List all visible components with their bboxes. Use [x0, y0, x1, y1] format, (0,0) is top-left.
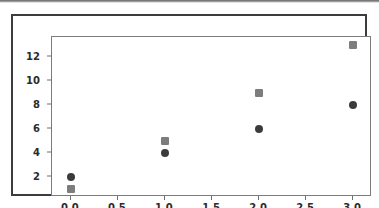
y-tick-label: 2: [33, 170, 40, 181]
x-tick-mark: [258, 196, 259, 200]
y-tick-mark: [47, 127, 51, 128]
y-tick-label: 8: [33, 99, 40, 110]
data-point-circles-3: [349, 101, 357, 109]
x-tick-label: 1.5: [202, 202, 220, 208]
scatter-plot-area: [51, 36, 371, 196]
x-tick-mark: [305, 196, 306, 200]
y-tick-label: 4: [33, 146, 40, 157]
x-tick-label: 0.5: [108, 202, 126, 208]
y-tick-mark: [47, 56, 51, 57]
data-point-squares-0: [67, 185, 75, 193]
x-tick-mark: [164, 196, 165, 200]
x-tick-label: 0.0: [61, 202, 79, 208]
data-point-squares-2: [255, 89, 263, 97]
y-tick-mark: [47, 151, 51, 152]
top-gray-band: [0, 0, 379, 3]
y-tick-mark: [47, 175, 51, 176]
data-point-circles-0: [67, 173, 75, 181]
y-tick-mark: [47, 104, 51, 105]
y-tick-label: 6: [33, 122, 40, 133]
x-tick-label: 2.5: [296, 202, 314, 208]
y-tick-mark: [47, 80, 51, 81]
data-point-circles-2: [255, 125, 263, 133]
figure-frame: 246810120.00.51.01.52.02.53.0: [11, 14, 367, 196]
x-tick-label: 1.0: [155, 202, 173, 208]
y-tick-label: 10: [26, 75, 40, 86]
data-point-circles-1: [161, 149, 169, 157]
x-tick-mark: [117, 196, 118, 200]
x-tick-mark: [70, 196, 71, 200]
x-tick-mark: [352, 196, 353, 200]
y-tick-label: 12: [26, 51, 40, 62]
data-point-squares-3: [349, 41, 357, 49]
x-tick-label: 3.0: [343, 202, 361, 208]
x-tick-mark: [211, 196, 212, 200]
data-point-squares-1: [161, 137, 169, 145]
x-tick-label: 2.0: [249, 202, 267, 208]
